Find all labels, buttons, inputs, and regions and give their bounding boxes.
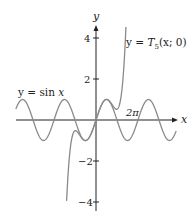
y-tick-label-neg2: −2 [78, 156, 93, 167]
x-axis-label: x [181, 113, 188, 126]
taylor-curve-label: y = T5(x; 0) [125, 36, 187, 51]
x-axis-arrow-icon [172, 118, 178, 123]
y-axis-label: y [92, 10, 100, 23]
y-tick-label-neg4: −4 [78, 197, 93, 208]
sine-curve-label: y = sin x [17, 86, 64, 98]
y-tick-label-4: 4 [84, 33, 90, 44]
y-tick-label-2: 2 [84, 74, 90, 85]
taylor-sine-chart: x y 4 2 −2 −4 2π y = sin x y = T5(x; 0) [0, 0, 194, 222]
two-pi-label: 2π [125, 107, 139, 118]
y-axis-arrow-icon [94, 25, 99, 31]
